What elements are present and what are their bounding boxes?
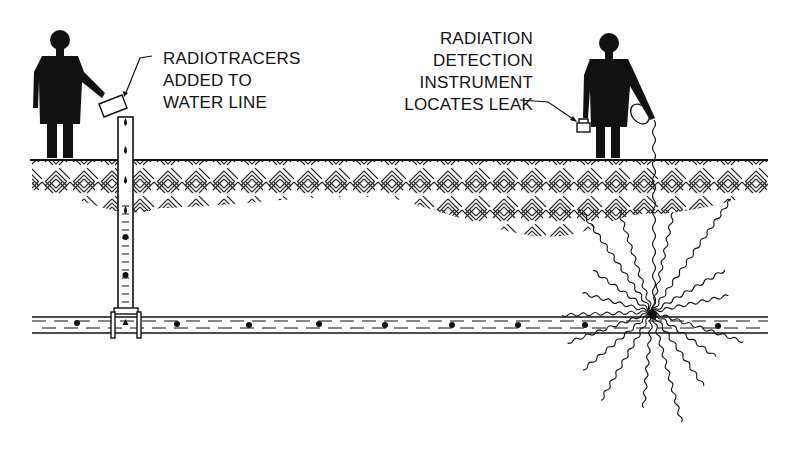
leak-point — [649, 310, 656, 317]
label-line: INSTRUMENT — [380, 72, 533, 94]
radiation-detector-icon — [577, 119, 590, 132]
worker-left — [33, 30, 152, 158]
label-line: LOCATES LEAK — [380, 94, 533, 116]
diagram-canvas: RADIOTRACERS ADDED TO WATER LINE RADIATI… — [0, 0, 794, 452]
label-line: DETECTION — [380, 50, 533, 72]
label-line: ADDED TO — [163, 70, 300, 92]
radiation-emission — [562, 198, 744, 422]
label-line: WATER LINE — [163, 92, 300, 114]
riser-pipe — [111, 117, 141, 338]
tracer-container — [99, 95, 127, 117]
label-line: RADIATION — [380, 28, 533, 50]
soil-layer — [30, 160, 768, 237]
water-line — [32, 313, 768, 334]
tracer-input-label: RADIOTRACERS ADDED TO WATER LINE — [163, 48, 300, 114]
detector-label: RADIATION DETECTION INSTRUMENT LOCATES L… — [380, 28, 533, 116]
label-line: RADIOTRACERS — [163, 48, 300, 70]
